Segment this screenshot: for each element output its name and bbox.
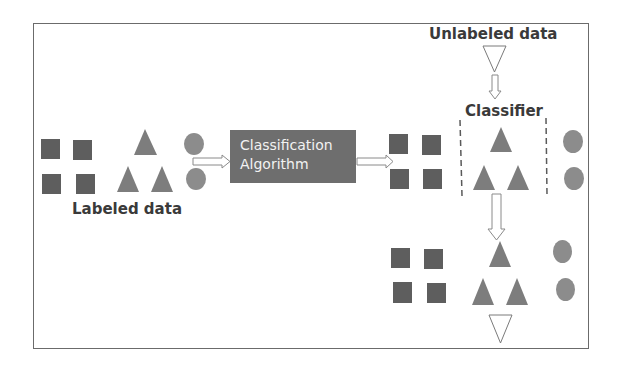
result-output-triangle-icon (489, 315, 512, 343)
classifier-label: Classifier (465, 102, 543, 120)
diagram-shapes (0, 0, 617, 368)
algorithm-box-line1: Classification (240, 136, 356, 155)
classified-triangle-3 (507, 165, 529, 190)
classified-triangle-1 (490, 127, 512, 152)
arrow-right-icon (357, 155, 393, 168)
classification-algorithm-box: Classification Algorithm (230, 130, 356, 183)
unlabeled-input-triangle-icon (483, 46, 506, 72)
classifier-boundary-right (546, 118, 547, 195)
result-triangle-2 (472, 278, 494, 305)
labeled-triangle-2 (117, 166, 139, 192)
algorithm-box-line2: Algorithm (240, 155, 356, 174)
classified-triangle-2 (473, 165, 495, 190)
result-triangle-3 (506, 278, 528, 305)
labeled-data-label: Labeled data (72, 200, 182, 218)
arrow-down-icon (488, 194, 505, 240)
unlabeled-data-label: Unlabeled data (429, 25, 557, 43)
labeled-triangle-1 (134, 129, 157, 155)
classifier-boundary-left (460, 120, 462, 196)
result-triangle-1 (489, 241, 511, 267)
arrow-right-icon (193, 155, 230, 168)
labeled-triangle-3 (151, 166, 173, 192)
arrow-down-icon (489, 75, 501, 99)
